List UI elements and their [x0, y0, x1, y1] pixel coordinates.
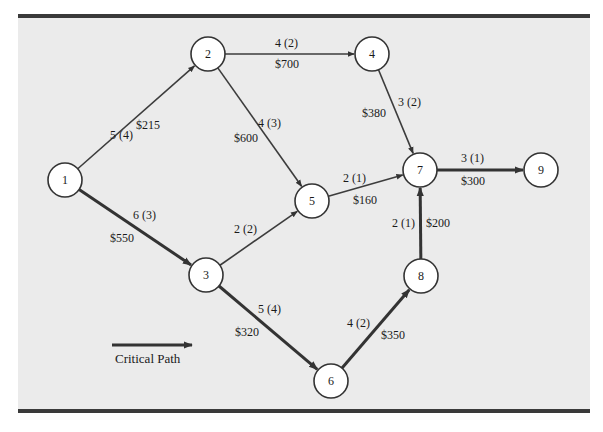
edge-8-7-critical	[420, 188, 421, 259]
edge-4-7-cost-label: $380	[362, 106, 386, 120]
edge-2-4-cost-label: $700	[275, 57, 299, 71]
edge-5-7-cost-label: $160	[353, 193, 377, 207]
edge-2-5-cost-label: $600	[234, 131, 258, 145]
top-rule	[18, 14, 590, 18]
edge-5-7-time-label: 2 (1)	[343, 171, 366, 185]
node-label: 5	[309, 194, 315, 208]
node-label: 4	[369, 47, 375, 61]
edge-8-7-cost-label: $200	[426, 216, 450, 230]
node-1: 1	[48, 163, 82, 197]
project-network-diagram: 5 (4)$2156 (3)$5504 (2)$7004 (3)$6002 (2…	[0, 0, 603, 432]
node-8: 8	[404, 259, 438, 293]
node-4: 4	[355, 37, 389, 71]
edge-6-8-time-label: 4 (2)	[347, 316, 370, 330]
node-9: 9	[524, 153, 558, 187]
node-label: 1	[62, 173, 68, 187]
edge-3-6-cost-label: $320	[235, 325, 259, 339]
edge-3-6-time-label: 5 (4)	[258, 302, 281, 316]
node-label: 8	[418, 269, 424, 283]
edge-1-3-time-label: 6 (3)	[133, 208, 156, 222]
edge-2-4-time-label: 4 (2)	[275, 36, 298, 50]
node-label: 6	[328, 374, 334, 388]
node-label: 2	[205, 47, 211, 61]
node-label: 3	[203, 268, 209, 282]
bottom-rule	[18, 409, 590, 413]
edge-4-7-time-label: 3 (2)	[398, 95, 421, 109]
edge-1-2-time-label: 5 (4)	[110, 128, 133, 142]
node-6: 6	[314, 364, 348, 398]
node-2: 2	[191, 37, 225, 71]
node-5: 5	[295, 184, 329, 218]
node-7: 7	[403, 153, 437, 187]
edge-1-3-cost-label: $550	[110, 231, 134, 245]
node-label: 9	[538, 163, 544, 177]
edge-3-5-time-label: 2 (2)	[234, 222, 257, 236]
edge-7-9-time-label: 3 (1)	[461, 151, 484, 165]
edge-1-2-cost-label: $215	[136, 118, 160, 132]
legend-label: Critical Path	[115, 351, 181, 366]
edge-7-9-cost-label: $300	[461, 174, 485, 188]
edge-8-7-time-label: 2 (1)	[392, 216, 415, 230]
node-3: 3	[189, 258, 223, 292]
node-label: 7	[417, 163, 423, 177]
edge-2-5-time-label: 4 (3)	[258, 116, 281, 130]
edge-6-8-cost-label: $350	[381, 328, 405, 342]
